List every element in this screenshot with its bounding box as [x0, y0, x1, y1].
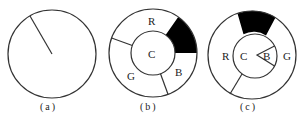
label-b: B [175, 66, 182, 78]
caption-b: (b) [140, 101, 158, 113]
label-b: B [263, 50, 270, 62]
label-g: G [127, 70, 135, 82]
diagram-b: R C G B (b) [109, 9, 197, 113]
label-g: G [283, 50, 291, 62]
caption-c: (c) [240, 101, 257, 113]
color-wheel-diagrams: (a) R C G B (b) R C B G (c) [0, 0, 303, 125]
divider-rg [112, 38, 133, 46]
label-c: C [240, 50, 247, 62]
label-c: C [148, 48, 155, 60]
divider-gb [161, 74, 169, 95]
divider-rg [230, 74, 242, 94]
label-r: R [222, 50, 230, 62]
radius-line [30, 16, 52, 54]
diagram-c: R C B G (c) [208, 11, 296, 113]
diagram-a: (a) [8, 10, 96, 113]
filled-sector [166, 17, 197, 53]
label-r: R [148, 15, 156, 27]
caption-a: (a) [40, 101, 57, 113]
